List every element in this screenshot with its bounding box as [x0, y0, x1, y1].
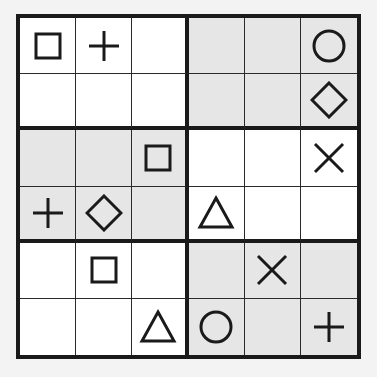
cell-r3-c1[interactable] [20, 130, 76, 186]
cell-r1-c4[interactable] [189, 18, 245, 74]
square-icon [85, 251, 123, 289]
cell-r3-c3[interactable] [132, 130, 188, 186]
cell-r5-c4[interactable] [189, 243, 245, 299]
cell-r1-c6[interactable] [301, 18, 357, 74]
cell-r2-c6[interactable] [301, 74, 357, 130]
cell-r6-c3[interactable] [132, 299, 188, 355]
cell-r5-c6[interactable] [301, 243, 357, 299]
cell-r2-c3[interactable] [132, 74, 188, 130]
cell-r1-c5[interactable] [245, 18, 301, 74]
plus-icon [29, 194, 67, 232]
cell-r6-c6[interactable] [301, 299, 357, 355]
diamond-icon [310, 81, 348, 119]
cell-r6-c2[interactable] [76, 299, 132, 355]
circle-icon [197, 308, 235, 346]
cell-r3-c4[interactable] [189, 130, 245, 186]
cross-icon [253, 251, 291, 289]
cell-r4-c3[interactable] [132, 187, 188, 243]
cell-r6-c1[interactable] [20, 299, 76, 355]
cell-r2-c2[interactable] [76, 74, 132, 130]
cell-r4-c6[interactable] [301, 187, 357, 243]
cell-r1-c2[interactable] [76, 18, 132, 74]
cell-r1-c3[interactable] [132, 18, 188, 74]
cell-r4-c1[interactable] [20, 187, 76, 243]
square-icon [29, 27, 67, 65]
triangle-icon [197, 194, 235, 232]
circle-icon [310, 27, 348, 65]
square-icon [139, 139, 177, 177]
cell-r5-c1[interactable] [20, 243, 76, 299]
cell-r4-c5[interactable] [245, 187, 301, 243]
cell-r3-c6[interactable] [301, 130, 357, 186]
cell-r1-c1[interactable] [20, 18, 76, 74]
cell-r2-c5[interactable] [245, 74, 301, 130]
cell-r2-c4[interactable] [189, 74, 245, 130]
cell-r4-c4[interactable] [189, 187, 245, 243]
cell-r5-c3[interactable] [132, 243, 188, 299]
plus-icon [310, 308, 348, 346]
cell-r3-c5[interactable] [245, 130, 301, 186]
puzzle-grid [20, 18, 357, 355]
cell-r3-c2[interactable] [76, 130, 132, 186]
cell-r4-c2[interactable] [76, 187, 132, 243]
cell-r5-c5[interactable] [245, 243, 301, 299]
diamond-icon [85, 194, 123, 232]
plus-icon [85, 27, 123, 65]
triangle-icon [139, 308, 177, 346]
cell-r5-c2[interactable] [76, 243, 132, 299]
cross-icon [310, 139, 348, 177]
cell-r6-c5[interactable] [245, 299, 301, 355]
puzzle-board [16, 14, 361, 359]
cell-r2-c1[interactable] [20, 74, 76, 130]
cell-r6-c4[interactable] [189, 299, 245, 355]
